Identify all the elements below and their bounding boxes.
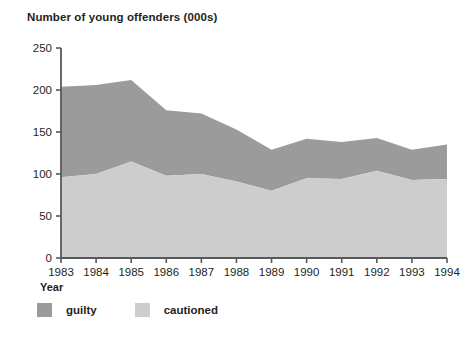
x-tick-label: 1990 (294, 266, 320, 278)
x-tick-label: 1992 (364, 266, 390, 278)
legend-spacer (97, 310, 135, 311)
x-axis-title: Year (40, 281, 63, 293)
y-tick-label: 50 (39, 210, 52, 222)
x-tick-label: 1987 (189, 266, 215, 278)
y-tick-label: 250 (33, 42, 52, 54)
legend-item-cautioned: cautioned (135, 303, 218, 317)
x-tick-label: 1986 (153, 266, 179, 278)
x-axis-ticks: 1983198419851986198719881989199019911992… (48, 258, 460, 278)
x-tick-label: 1993 (399, 266, 425, 278)
x-tick-label: 1988 (224, 266, 250, 278)
y-axis-ticks: 050100150200250 (33, 42, 61, 264)
x-tick-label: 1983 (48, 266, 74, 278)
y-tick-label: 150 (33, 126, 52, 138)
x-tick-label: 1984 (83, 266, 109, 278)
x-tick-label: 1985 (118, 266, 144, 278)
legend-swatch-cautioned (135, 303, 150, 317)
chart-figure: Number of young offenders (000s) 0501001… (0, 0, 473, 339)
legend-swatch-guilty (37, 303, 52, 317)
y-tick-label: 100 (33, 168, 52, 180)
legend-item-guilty: guilty (37, 303, 97, 317)
y-tick-label: 0 (46, 252, 52, 264)
y-tick-label: 200 (33, 84, 52, 96)
legend-label-cautioned: cautioned (164, 304, 218, 316)
legend-label-guilty: guilty (66, 304, 97, 316)
x-tick-label: 1994 (434, 266, 460, 278)
area-series-layer (61, 80, 447, 258)
area-chart-plot: 050100150200250 198319841985198619871988… (0, 0, 473, 339)
x-tick-label: 1989 (259, 266, 285, 278)
x-tick-label: 1991 (329, 266, 355, 278)
chart-legend: guilty cautioned (37, 303, 218, 317)
